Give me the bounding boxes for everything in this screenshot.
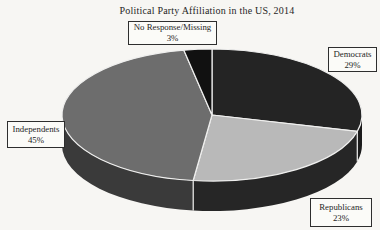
pie-chart-figure: Political Party Affiliation in the US, 2…: [0, 0, 380, 230]
callout-label: No Response/Missing: [134, 22, 211, 33]
callout-no-response: No Response/Missing 3%: [128, 21, 217, 45]
callout-value: 3%: [167, 33, 179, 44]
callout-value: 29%: [344, 60, 360, 71]
callout-value: 23%: [333, 213, 349, 224]
callout-democrats: Democrats 29%: [328, 47, 377, 72]
callout-label: Independents: [13, 124, 60, 135]
callout-independents: Independents 45%: [7, 121, 65, 148]
callout-label: Democrats: [333, 49, 371, 60]
callout-republicans: Republicans 23%: [310, 198, 372, 227]
pie-top-faces: [62, 49, 362, 181]
callout-value: 45%: [28, 135, 44, 146]
callout-label: Republicans: [319, 202, 363, 213]
